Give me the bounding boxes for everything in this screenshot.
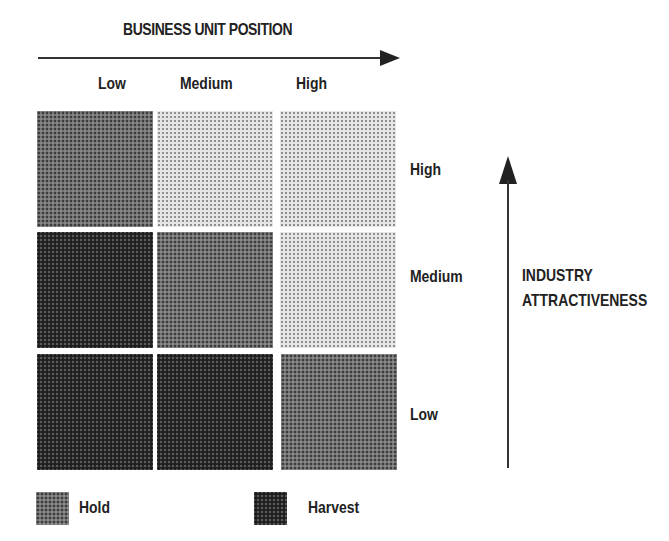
x-level-medium: Medium	[180, 74, 233, 94]
cell-low-attr-low-pos	[37, 354, 153, 470]
y-axis-arrow-line	[507, 180, 509, 468]
x-level-high: High	[296, 74, 327, 94]
y-level-low: Low	[410, 405, 438, 425]
cell-low-attr-medium-pos	[157, 354, 273, 470]
y-axis-title-line2: ATTRACTIVENESS	[522, 291, 647, 311]
x-level-low: Low	[98, 74, 126, 94]
cell-high-attr-high-pos	[280, 111, 396, 227]
cell-low-attr-high-pos	[281, 354, 397, 470]
cell-high-attr-low-pos	[37, 111, 153, 227]
cell-high-attr-medium-pos	[157, 111, 273, 227]
x-axis-arrowhead-icon	[380, 50, 400, 66]
y-axis-title-line1: INDUSTRY	[522, 266, 593, 286]
y-level-medium: Medium	[410, 267, 463, 287]
cell-medium-attr-medium-pos	[157, 232, 273, 348]
legend-swatch-hold	[36, 492, 69, 525]
legend-label-hold: Hold	[79, 498, 110, 518]
y-level-high: High	[410, 160, 441, 180]
cell-medium-attr-low-pos	[37, 232, 153, 348]
x-axis-title: BUSINESS UNIT POSITION	[123, 20, 292, 40]
legend-label-harvest: Harvest	[308, 498, 359, 518]
legend-swatch-harvest	[254, 492, 287, 525]
cell-medium-attr-high-pos	[280, 232, 396, 348]
x-axis-arrow-line	[38, 57, 383, 59]
